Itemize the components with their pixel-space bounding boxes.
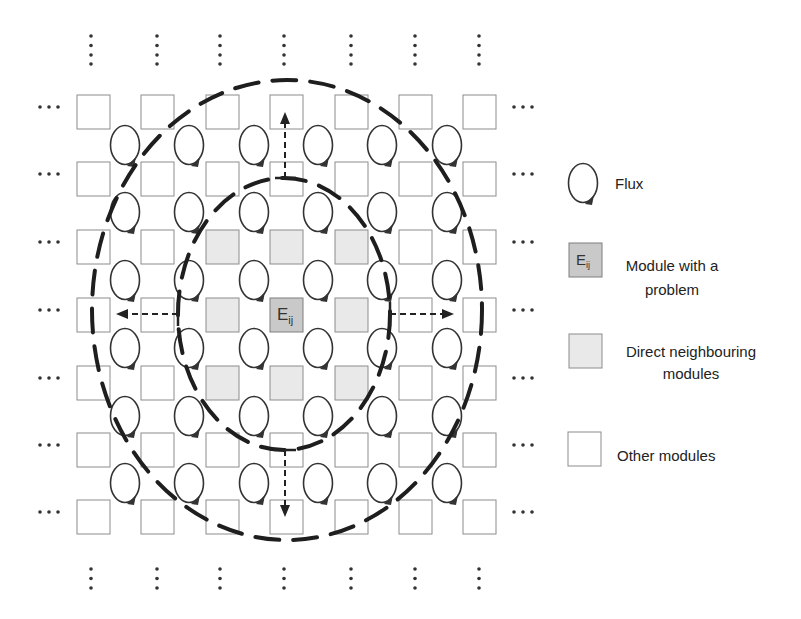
legend-item-problem-module: Eij Module with a problem [569, 243, 719, 298]
flux-icon [304, 464, 333, 506]
other-module [77, 500, 110, 534]
other-module [399, 433, 432, 467]
other-module [399, 500, 432, 534]
other-module [141, 162, 174, 196]
flux-icon [304, 329, 333, 371]
legend-label-flux: Flux [615, 175, 644, 192]
legend-item-neighbour-module: Direct neighbouring modules [569, 334, 756, 382]
other-module [206, 162, 239, 196]
flux-icon [175, 126, 204, 168]
flux-icon [304, 397, 333, 439]
neighbour-module [270, 230, 303, 264]
flux-icon [433, 397, 462, 439]
legend-label-neighbour-line1: Direct neighbouring [626, 343, 756, 360]
flux-icon [304, 261, 333, 303]
other-module [206, 433, 239, 467]
other-module [141, 230, 174, 264]
flux-icon [569, 164, 598, 206]
other-module [141, 95, 174, 129]
other-module [335, 433, 368, 467]
other-module [77, 230, 110, 264]
flux-icon [368, 126, 397, 168]
other-module [463, 230, 496, 264]
flux-icon [433, 464, 462, 506]
flux-icon [175, 193, 204, 235]
neighbour-module [335, 230, 368, 264]
top-continuation-dots [89, 34, 481, 66]
other-module [77, 433, 110, 467]
legend-item-flux: Flux [569, 164, 644, 206]
flux-icon [240, 464, 269, 506]
other-module [399, 366, 432, 400]
legend-label-problem-line1: Module with a [626, 257, 719, 274]
other-module [141, 500, 174, 534]
flux-icon [175, 397, 204, 439]
module-flux-diagram: Eij Flux Eij Module with a problem [0, 0, 801, 619]
other-module [77, 162, 110, 196]
other-module [399, 162, 432, 196]
neighbour-module [206, 298, 239, 332]
flux-icon [111, 261, 140, 303]
left-continuation-dots [38, 105, 60, 514]
other-module [335, 162, 368, 196]
neighbour-module [206, 366, 239, 400]
other-module [399, 230, 432, 264]
legend-label-neighbour-line2: modules [663, 365, 720, 382]
neighbour-module-icon [569, 334, 602, 368]
flux-icon [304, 126, 333, 168]
other-module [463, 95, 496, 129]
other-module [77, 95, 110, 129]
flux-icon [368, 464, 397, 506]
legend-label-other: Other modules [617, 447, 715, 464]
flux-icon [368, 261, 397, 303]
flux-icon [433, 261, 462, 303]
legend: Flux Eij Module with a problem Direct ne… [568, 164, 756, 467]
flux-icon [240, 126, 269, 168]
flux-icon [433, 329, 462, 371]
legend-item-other-module: Other modules [568, 432, 715, 466]
flux-icon [111, 126, 140, 168]
right-continuation-dots [512, 105, 534, 514]
flux-icon [240, 261, 269, 303]
flux-icon [368, 193, 397, 235]
other-module [141, 433, 174, 467]
neighbour-module [206, 230, 239, 264]
flux-icon [111, 329, 140, 371]
other-module [463, 162, 496, 196]
flux-icon [304, 193, 333, 235]
other-module-icon [568, 432, 601, 466]
other-module [141, 366, 174, 400]
flux-icon [175, 464, 204, 506]
flux-icon [240, 193, 269, 235]
neighbour-module [335, 298, 368, 332]
flux-icon [240, 397, 269, 439]
neighbour-module [270, 366, 303, 400]
flux-icon [368, 397, 397, 439]
flux-icon [111, 464, 140, 506]
other-module [399, 95, 432, 129]
flux-icon [240, 329, 269, 371]
other-module [463, 500, 496, 534]
neighbour-module [335, 366, 368, 400]
legend-label-problem-line2: problem [645, 281, 699, 298]
bottom-continuation-dots [89, 567, 481, 590]
other-module [463, 433, 496, 467]
